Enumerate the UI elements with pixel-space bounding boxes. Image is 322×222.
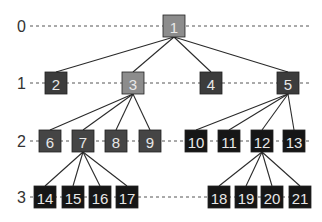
tree-node: 6 bbox=[39, 130, 61, 152]
tree-node: 10 bbox=[185, 130, 207, 152]
tree-node: 1 bbox=[163, 15, 185, 37]
tree-node: 5 bbox=[277, 72, 299, 94]
tree-edge bbox=[83, 152, 100, 186]
node-label: 6 bbox=[46, 134, 54, 151]
node-label: 18 bbox=[211, 190, 228, 207]
tree-node: 18 bbox=[208, 186, 230, 208]
tree-node: 3 bbox=[122, 72, 144, 94]
tree-edge bbox=[45, 152, 83, 186]
tree-edge bbox=[246, 152, 262, 186]
tree-node: 19 bbox=[235, 186, 257, 208]
tree-diagram: 0123 123456789101112131415161718192021 bbox=[0, 0, 322, 222]
tree-edge bbox=[262, 152, 300, 186]
node-label: 16 bbox=[92, 190, 109, 207]
tree-node: 11 bbox=[218, 130, 240, 152]
node-label: 1 bbox=[170, 19, 178, 36]
level-label: 1 bbox=[17, 75, 26, 92]
tree-edge bbox=[133, 37, 174, 72]
level-label: 2 bbox=[17, 133, 26, 150]
node-label: 7 bbox=[79, 134, 87, 151]
node-label: 4 bbox=[207, 76, 215, 93]
tree-edge bbox=[219, 152, 262, 186]
tree-edges bbox=[45, 37, 300, 186]
node-label: 9 bbox=[146, 134, 154, 151]
node-label: 13 bbox=[286, 134, 303, 151]
node-label: 10 bbox=[188, 134, 205, 151]
level-guide-lines bbox=[30, 26, 312, 197]
tree-node: 4 bbox=[200, 72, 222, 94]
tree-node: 8 bbox=[105, 130, 127, 152]
node-label: 14 bbox=[37, 190, 54, 207]
tree-edge bbox=[83, 152, 127, 186]
tree-node: 14 bbox=[34, 186, 56, 208]
tree-edge bbox=[56, 37, 174, 72]
node-label: 3 bbox=[129, 76, 137, 93]
tree-node: 16 bbox=[89, 186, 111, 208]
tree-edge bbox=[50, 94, 133, 130]
level-label: 0 bbox=[17, 18, 26, 35]
node-label: 11 bbox=[221, 134, 237, 151]
node-label: 19 bbox=[238, 190, 255, 207]
tree-edge bbox=[288, 94, 294, 130]
tree-node: 9 bbox=[139, 130, 161, 152]
node-label: 8 bbox=[112, 134, 120, 151]
tree-edge bbox=[133, 94, 150, 130]
node-label: 15 bbox=[65, 190, 82, 207]
tree-node: 15 bbox=[62, 186, 84, 208]
node-label: 17 bbox=[119, 190, 136, 207]
tree-node: 13 bbox=[283, 130, 305, 152]
tree-node: 20 bbox=[261, 186, 283, 208]
tree-node: 7 bbox=[72, 130, 94, 152]
node-label: 21 bbox=[292, 190, 309, 207]
node-label: 12 bbox=[254, 134, 271, 151]
tree-edge bbox=[196, 94, 288, 130]
tree-edge bbox=[116, 94, 133, 130]
tree-node: 2 bbox=[45, 72, 67, 94]
tree-edge bbox=[229, 94, 288, 130]
tree-node: 21 bbox=[289, 186, 311, 208]
tree-node: 17 bbox=[116, 186, 138, 208]
node-label: 5 bbox=[284, 76, 292, 93]
level-label: 3 bbox=[17, 189, 26, 206]
level-labels: 0123 bbox=[17, 18, 26, 206]
node-label: 20 bbox=[264, 190, 281, 207]
node-label: 2 bbox=[52, 76, 60, 93]
tree-node: 12 bbox=[251, 130, 273, 152]
tree-edge bbox=[174, 37, 288, 72]
